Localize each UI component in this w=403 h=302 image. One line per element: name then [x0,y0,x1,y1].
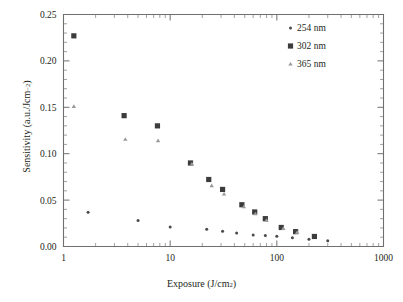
data-point-302-nm [220,187,225,192]
data-point-302-nm [312,234,317,239]
y-axis-title: Sensitivity (a.u./Jcm−2) [21,27,32,227]
data-point-254-nm [235,232,238,235]
data-point-254-nm [205,228,208,231]
x-tick-label: 1000 [374,253,393,263]
y-tick-label-group: 0.000.050.100.150.200.25 [40,10,57,252]
y-axis-title-superscript: −2 [24,84,31,91]
data-point-302-nm [122,113,127,118]
data-point-254-nm [137,219,140,222]
legend-item-365nm: 365 nm [297,55,326,73]
y-tick-label: 0.15 [40,103,57,113]
legend: 254 nm 302 nm 365 nm [297,19,326,73]
data-point-254-nm [169,226,172,229]
legend-label-302nm: 302 nm [297,41,326,51]
plot-canvas: 1101001000 0.000.050.100.150.200.25 [0,0,403,302]
axis-frame [64,15,384,247]
legend-item-254nm: 254 nm [297,19,326,37]
data-point-365-nm [156,139,160,143]
data-point-365-nm [72,104,76,108]
legend-label-365nm: 365 nm [297,59,326,69]
data-point-302-nm [206,177,211,182]
data-point-254-nm [252,233,255,236]
legend-marker-365-nm [288,62,292,66]
x-tick-label-group: 1101001000 [61,253,393,263]
legend-item-302nm: 302 nm [297,37,326,55]
y-tick-label: 0.00 [40,242,57,252]
legend-marker-254-nm [289,27,292,30]
data-point-254-nm [307,238,310,241]
data-point-365-nm [222,192,226,196]
x-tick-label: 10 [165,253,175,263]
y-axis-title-text: Sensitivity (a.u./Jcm [21,91,32,173]
data-point-254-nm [275,235,278,238]
major-tick-group [64,15,384,247]
legend-label-254nm: 254 nm [297,23,326,33]
data-point-254-nm [291,236,294,239]
x-axis-title-close: ) [233,278,236,289]
x-tick-label: 100 [270,253,285,263]
data-point-365-nm [123,137,127,141]
x-tick-label: 1 [61,253,66,263]
data-point-254-nm [264,234,267,237]
data-point-254-nm [326,239,329,242]
legend-marker-302-nm [288,43,293,48]
minor-tick-group [64,15,384,247]
y-axis-title-close: ) [21,80,32,83]
y-tick-label: 0.10 [40,149,57,159]
y-tick-label: 0.20 [40,56,57,66]
data-point-254-nm [87,211,90,214]
data-point-254-nm [221,230,224,233]
y-tick-label: 0.25 [40,10,57,20]
figure-scatter-plot: 1101001000 0.000.050.100.150.200.25 Expo… [0,0,403,302]
y-tick-label: 0.05 [40,196,57,206]
x-axis-title: Exposure (J/cm2) [0,278,403,289]
legend-marker-group [288,27,293,66]
x-axis-title-text: Exposure (J/cm [167,278,230,289]
data-point-302-nm [71,33,76,38]
data-point-302-nm [155,123,160,128]
data-point-365-nm [209,184,213,188]
